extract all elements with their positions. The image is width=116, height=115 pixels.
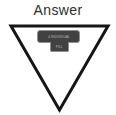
- inverted-triangle-outline: [11, 26, 108, 110]
- inverted-triangle-icon: [0, 0, 116, 115]
- answer-card: Answer 4-INDIVIDUAL PILL: [0, 0, 116, 115]
